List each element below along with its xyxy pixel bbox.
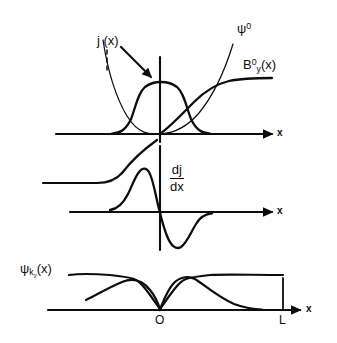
by-base: B	[243, 57, 252, 72]
curve-psi-ky-inner	[86, 277, 262, 309]
dj-dx-numerator: dj	[170, 163, 184, 179]
bottom-panel	[48, 274, 300, 310]
j-of-x-pointer-arrow-icon	[121, 47, 151, 77]
psi-ky-subscript: ky	[29, 267, 36, 277]
tick-label-origin: O	[155, 314, 164, 326]
curve-psi-zero-tail	[43, 173, 122, 183]
curve-psi-zero-steep	[122, 140, 157, 173]
psi-zero-superscript: 0	[246, 21, 251, 31]
curve-label-by-zero: B0y(x)	[243, 58, 276, 74]
dj-dx-denominator: dx	[170, 179, 184, 194]
psi-ky-base: ψ	[20, 261, 29, 276]
middle-panel	[43, 140, 272, 250]
curve-label-psi-zero: ψ0	[237, 22, 251, 35]
top-panel	[56, 40, 272, 142]
axis-x-label-top: x	[277, 128, 283, 138]
tick-label-length-L: L	[279, 314, 286, 326]
axis-x-label-bottom: x	[306, 304, 312, 314]
curve-label-j-of-x: j (x)	[97, 34, 119, 47]
diagram-canvas	[0, 0, 337, 343]
psi-zero-symbol: ψ	[237, 21, 246, 36]
by-argument: (x)	[261, 57, 276, 72]
psi-ky-argument: (x)	[37, 261, 52, 276]
curve-label-dj-dx: dj dx	[170, 163, 184, 194]
axis-x-label-middle: x	[277, 206, 283, 216]
curve-label-psi-ky: ψky(x)	[20, 262, 52, 278]
figure-root: j (x) ψ0 B0y(x) dj dx ψky(x) x x x O L	[0, 0, 337, 343]
